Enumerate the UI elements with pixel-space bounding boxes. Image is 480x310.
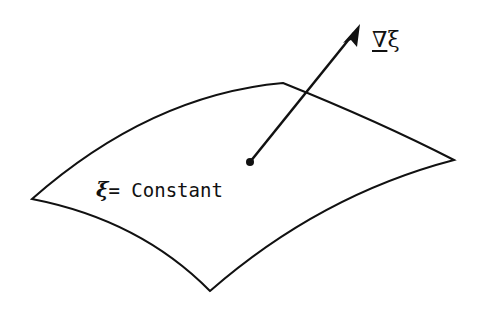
surface-point: [246, 158, 254, 166]
nabla-symbol: ∇: [372, 27, 387, 52]
surface-equation-label: ξ= Constant: [96, 177, 223, 202]
xi-symbol: ξ: [387, 27, 399, 52]
constant-text: Constant: [120, 179, 223, 201]
gradient-label: ∇ξ: [372, 27, 400, 52]
diagram-canvas: ∇ξ ξ= Constant: [0, 0, 480, 310]
xi-symbol: ξ: [96, 177, 108, 202]
gradient-arrow: [250, 33, 354, 162]
equals-sign: =: [108, 179, 119, 201]
diagram-svg: [0, 0, 480, 310]
